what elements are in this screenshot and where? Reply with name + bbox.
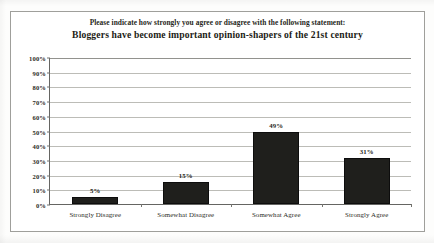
y-axis-tick-label: 80% bbox=[33, 84, 47, 91]
bar-value-label: 5% bbox=[90, 187, 101, 194]
y-axis-tick-label: 20% bbox=[33, 172, 47, 179]
x-axis-tick-mark bbox=[141, 204, 142, 207]
x-axis-tick-mark bbox=[411, 204, 412, 207]
chart-page: Please indicate how strongly you agree o… bbox=[0, 0, 434, 243]
chart-frame: Please indicate how strongly you agree o… bbox=[10, 11, 425, 232]
y-axis-tick-label: 90% bbox=[33, 69, 47, 76]
y-axis-tick-label: 60% bbox=[33, 113, 47, 120]
bar-value-label: 31% bbox=[360, 148, 374, 155]
chart-title-line-2: Bloggers have become important opinion-s… bbox=[11, 28, 424, 41]
x-axis-category-label: Somewhat Agree bbox=[252, 211, 301, 218]
bar[interactable] bbox=[253, 132, 299, 204]
x-axis-category-label: Strongly Agree bbox=[345, 211, 388, 218]
bar-value-label: 49% bbox=[269, 122, 283, 129]
y-axis-tick-label: 30% bbox=[33, 157, 47, 164]
bar[interactable] bbox=[72, 197, 118, 204]
bar-group: 15%Somewhat Disagree bbox=[141, 58, 232, 204]
bar-value-label: 15% bbox=[179, 172, 193, 179]
bar-group: 31%Strongly Agree bbox=[322, 58, 413, 204]
y-axis-tick-label: 0% bbox=[36, 202, 46, 209]
y-axis-tick-label: 40% bbox=[33, 143, 47, 150]
plot-area: 100%90%80%70%60%50%40%30%20%10%0%5%Stron… bbox=[49, 58, 411, 205]
bar[interactable] bbox=[163, 182, 209, 204]
x-axis-tick-mark bbox=[231, 204, 232, 207]
bar-group: 5%Strongly Disagree bbox=[50, 58, 141, 204]
y-axis-tick-mark bbox=[47, 205, 50, 206]
chart-title-line-1: Please indicate how strongly you agree o… bbox=[11, 17, 424, 28]
y-axis-tick-label: 10% bbox=[33, 187, 47, 194]
x-axis-tick-mark bbox=[322, 204, 323, 207]
y-axis-tick-label: 70% bbox=[33, 99, 47, 106]
bar-group: 49%Somewhat Agree bbox=[231, 58, 322, 204]
bar[interactable] bbox=[344, 158, 390, 204]
x-axis-category-label: Somewhat Disagree bbox=[157, 211, 214, 218]
chart-title: Please indicate how strongly you agree o… bbox=[11, 17, 424, 41]
y-axis-tick-label: 100% bbox=[29, 55, 46, 62]
y-axis-tick-label: 50% bbox=[33, 128, 47, 135]
plot-container: 100%90%80%70%60%50%40%30%20%10%0%5%Stron… bbox=[49, 58, 411, 205]
x-axis-category-label: Strongly Disagree bbox=[69, 211, 121, 218]
